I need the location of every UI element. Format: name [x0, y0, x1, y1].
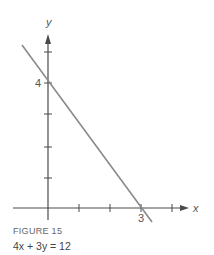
equation-line: [22, 45, 152, 222]
x-axis-arrow-icon: [180, 205, 189, 211]
y-intercept-label: 4: [35, 77, 41, 89]
x-axis-label: x: [192, 202, 199, 214]
figure-equation: 4x + 3y = 12: [13, 240, 71, 252]
x-intercept-label: 3: [138, 212, 144, 224]
figure-label: FIGURE 15: [13, 226, 62, 236]
y-axis-label: y: [45, 16, 53, 28]
y-axis-arrow-icon: [45, 34, 51, 44]
line-graph: y x 4 3: [0, 0, 214, 255]
